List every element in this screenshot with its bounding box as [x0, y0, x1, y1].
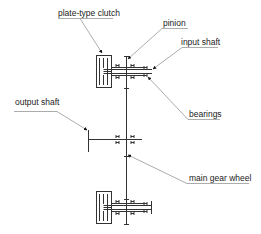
label-pinion: pinion	[163, 18, 186, 28]
label-bearings: bearings	[189, 109, 222, 119]
label-plate-type-clutch: plate-type clutch	[58, 8, 120, 18]
leader-output-shaft	[14, 112, 87, 131]
lower-plate-clutch	[97, 192, 112, 224]
label-main-gear-wheel: main gear wheel	[189, 173, 251, 183]
main-gear-wheel	[124, 88, 129, 200]
upper-plate-clutch	[97, 56, 112, 88]
gearbox-schematic	[0, 0, 261, 234]
leader-pinion	[128, 29, 188, 60]
leader-plate-type-clutch	[58, 19, 113, 54]
label-output-shaft: output shaft	[15, 97, 59, 107]
leader-input-shaft	[153, 48, 218, 70]
lower-bearings	[116, 200, 147, 215]
output-shaft-line	[89, 130, 143, 152]
pinion-gear	[124, 56, 129, 88]
upper-bearings	[116, 64, 147, 79]
label-input-shaft: input shaft	[181, 37, 220, 47]
